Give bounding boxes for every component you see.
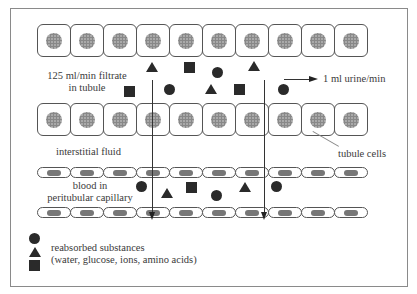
legend-triangle-icon [29,247,41,257]
capillary-cell [136,167,170,178]
nucleus [46,112,62,128]
lower-capillary-cell-row [37,207,367,218]
interstitial-fluid-label: interstitial fluid [56,146,121,158]
nucleus [310,33,326,49]
tubule-cell [301,24,335,57]
nucleus [344,170,358,176]
capillary-cell [103,167,137,178]
capillary-cell [268,167,302,178]
tubule-cell [136,24,170,57]
lower-tubule-cell-row [37,103,367,136]
square-icon [184,62,195,73]
nucleus [179,210,193,216]
triangle-icon [248,61,260,71]
tubule-cells-label: tubule cells [338,148,386,160]
urine-label: 1 ml urine/min [323,73,385,85]
nucleus [277,112,293,128]
capillary-cell [70,207,104,218]
capillary-cell [169,167,203,178]
triangle-icon [146,62,158,72]
nucleus [178,33,194,49]
tubule-cell [235,24,269,57]
nucleus [343,112,359,128]
square-icon [124,86,135,97]
blood-label-line2: peritubular capillary [42,192,138,204]
triangle-icon [239,182,251,192]
square-icon [234,84,245,95]
capillary-cell [37,207,71,218]
capillary-cell [37,167,71,178]
circle-icon [271,181,282,192]
tubule-cell [136,103,170,136]
tubule-cell [37,24,71,57]
nucleus [80,170,94,176]
reabsorption-arrow-right-line [264,80,265,214]
tubule-cell [70,103,104,136]
circle-icon [136,181,147,192]
capillary-cell [202,207,236,218]
tubule-cell [103,103,137,136]
nucleus [244,33,260,49]
circle-icon [164,84,175,95]
nucleus [211,33,227,49]
tubule-cell [169,24,203,57]
nucleus [310,112,326,128]
nucleus [146,170,160,176]
tubule-cell [103,24,137,57]
nucleus [245,170,259,176]
nucleus [278,170,292,176]
nucleus [80,210,94,216]
nucleus [179,170,193,176]
circle-icon [212,67,223,78]
filtrate-label: 125 ml/min filtrate in tubule [42,70,132,94]
nucleus [145,33,161,49]
nucleus [212,170,226,176]
capillary-cell [202,167,236,178]
upper-tubule-cell-row [37,24,367,57]
capillary-cell [268,207,302,218]
nucleus [79,33,95,49]
blood-label: blood in peritubular capillary [42,180,138,204]
tubule-cell [202,24,236,57]
upper-capillary-cell-row [37,167,367,178]
square-icon [186,182,197,193]
nucleus [46,33,62,49]
tubule-cell [301,103,335,136]
legend-line2: (water, glucose, ions, amino acids) [51,254,197,266]
reabsorption-arrowhead-right-icon [261,212,267,220]
nucleus [178,112,194,128]
nucleus [311,210,325,216]
nucleus [343,33,359,49]
legend-line1: reabsorbed substances [51,242,145,254]
reabsorption-arrowhead-left-icon [149,212,155,220]
nucleus [344,210,358,216]
nucleus [112,112,128,128]
tubule-cell [334,24,368,57]
nucleus [212,210,226,216]
nucleus [277,33,293,49]
nucleus [113,170,127,176]
nucleus [211,112,227,128]
nucleus [47,170,61,176]
tubule-cell [202,103,236,136]
nucleus [278,210,292,216]
legend-circle-icon [29,233,40,244]
tubule-cell [169,103,203,136]
capillary-cell [334,167,368,178]
tubule-cell [268,24,302,57]
capillary-cell [169,207,203,218]
nucleus [244,112,260,128]
reabsorption-arrow-left-line [152,80,153,214]
nucleus [311,170,325,176]
tubule-cell [37,103,71,136]
legend-square-icon [29,260,40,271]
nucleus [145,112,161,128]
capillary-cell [301,207,335,218]
capillary-cell [70,167,104,178]
circle-icon [278,84,289,95]
filtrate-label-line2: in tubule [42,82,132,94]
nucleus [79,112,95,128]
nucleus [245,210,259,216]
tubule-cell [268,103,302,136]
circle-icon [211,190,222,201]
